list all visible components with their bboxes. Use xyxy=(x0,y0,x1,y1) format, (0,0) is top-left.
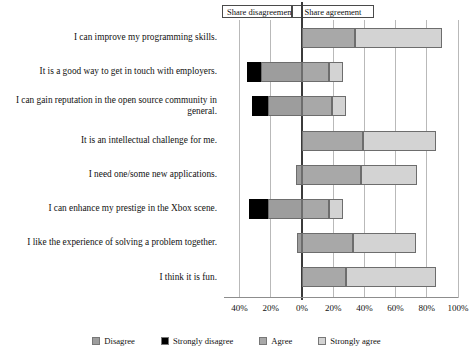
category-label: I can gain reputation in the open source… xyxy=(2,95,217,118)
legend-label: Agree xyxy=(271,336,292,346)
legend-swatch-icon xyxy=(259,337,267,345)
legend-item: Agree xyxy=(259,336,292,346)
x-tick-40%: 40% xyxy=(223,303,257,313)
bar-row xyxy=(224,124,458,158)
bar-segment xyxy=(302,28,355,48)
x-tick-80%: 80% xyxy=(410,303,444,313)
bar-segment xyxy=(346,267,436,287)
category-label: I can improve my programming skills. xyxy=(2,32,217,44)
legend-label: Disagree xyxy=(104,336,135,346)
plot-area xyxy=(224,20,458,298)
diverging-stacked-bar-chart: Share disagreement Share agreement I can… xyxy=(0,0,473,359)
bar-segment xyxy=(249,199,268,219)
x-tick-60%: 60% xyxy=(379,303,413,313)
bar-segment xyxy=(252,96,268,116)
bar-segment xyxy=(329,199,343,219)
bar-segment xyxy=(261,62,302,82)
share-agreement-annotation: Share agreement xyxy=(292,5,374,18)
legend-label: Strongly agree xyxy=(330,336,380,346)
bar-segment xyxy=(247,62,261,82)
category-label: It is an intellectual challenge for me. xyxy=(2,135,217,147)
bar-segment xyxy=(302,165,361,185)
category-label: I can enhance my prestige in the Xbox sc… xyxy=(2,203,217,215)
bar-row xyxy=(224,89,458,123)
bar-segment xyxy=(302,199,329,219)
bar-segment xyxy=(363,131,436,151)
bar-row xyxy=(224,55,458,89)
bar-segment xyxy=(268,96,302,116)
legend-swatch-icon xyxy=(92,337,100,345)
bar-segment xyxy=(329,62,343,82)
legend-swatch-icon xyxy=(318,337,326,345)
bar-segment xyxy=(302,267,346,287)
bar-row xyxy=(224,158,458,192)
bar-segment xyxy=(332,96,346,116)
bar-segment xyxy=(268,199,302,219)
x-tick-20%: 20% xyxy=(316,303,350,313)
category-label: I think it is fun. xyxy=(2,272,217,284)
bar-row xyxy=(224,226,458,260)
legend-swatch-icon xyxy=(161,337,169,345)
bar-segment xyxy=(361,165,417,185)
category-label: I like the experience of solving a probl… xyxy=(2,237,217,249)
legend-item: Strongly agree xyxy=(318,336,380,346)
x-tick-0%: 0% xyxy=(285,303,319,313)
category-label: It is a good way to get in touch with em… xyxy=(2,66,217,78)
chart-legend: DisagreeStrongly disagreeAgreeStrongly a… xyxy=(0,336,473,346)
category-label: I need one/some new applications. xyxy=(2,169,217,181)
legend-label: Strongly disagree xyxy=(173,336,233,346)
legend-item: Strongly disagree xyxy=(161,336,233,346)
share-disagreement-annotation: Share disagreement xyxy=(222,5,292,18)
bar-row xyxy=(224,192,458,226)
bar-segment xyxy=(355,28,442,48)
bar-row xyxy=(224,260,458,294)
bar-segment xyxy=(302,96,332,116)
bar-segment xyxy=(302,131,363,151)
legend-item: Disagree xyxy=(92,336,135,346)
x-tick-100%: 100% xyxy=(441,303,473,313)
bar-segment xyxy=(302,62,329,82)
bar-segment xyxy=(302,233,353,253)
x-tick-40%: 40% xyxy=(347,303,381,313)
x-axis-line xyxy=(224,297,458,298)
x-tick-20%: 20% xyxy=(254,303,288,313)
bar-row xyxy=(224,21,458,55)
bar-segment xyxy=(353,233,415,253)
